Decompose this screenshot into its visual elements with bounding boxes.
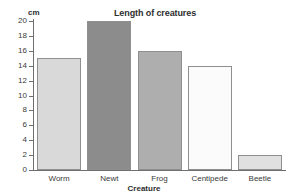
y-tick-label-text: 14 <box>7 62 27 70</box>
y-tick-label-text: 20 <box>7 17 27 25</box>
chart-title: Length of creatures <box>80 8 230 18</box>
y-tick-label: 2 <box>5 151 27 159</box>
x-axis-title: Creature <box>84 184 204 193</box>
y-tick-label-text: 8 <box>7 106 27 114</box>
bar-worm <box>37 58 81 170</box>
y-tick-label-text: 0 <box>7 166 27 174</box>
y-tick-label: 20 <box>5 17 27 25</box>
category-label-newt: Newt <box>84 174 134 183</box>
category-label-beetle: Beetle <box>235 174 285 183</box>
y-tick-label-text: 18 <box>7 32 27 40</box>
y-tick-label-text: 4 <box>7 136 27 144</box>
y-tick-label: 0 <box>5 166 27 174</box>
y-tick-label-text: 12 <box>7 77 27 85</box>
y-tick-label: 14 <box>5 62 27 70</box>
y-tick-label: 16 <box>5 47 27 55</box>
y-tick-label: 6 <box>5 121 27 129</box>
y-tick-label: 4 <box>5 136 27 144</box>
bar-centipede <box>188 66 232 170</box>
y-tick-label: 8 <box>5 106 27 114</box>
y-tick-label-text: 16 <box>7 47 27 55</box>
bar-frog <box>138 51 182 170</box>
y-tick-mark <box>29 170 34 171</box>
x-axis-line <box>33 170 286 171</box>
bar-chart: Length of creatures cm 02468101214161820… <box>0 0 287 196</box>
category-label-worm: Worm <box>34 174 84 183</box>
bar-beetle <box>238 155 282 170</box>
plot-area <box>34 21 285 170</box>
y-tick-label: 10 <box>5 92 27 100</box>
y-tick-label: 18 <box>5 32 27 40</box>
category-label-frog: Frog <box>134 174 184 183</box>
y-tick-label-text: 2 <box>7 151 27 159</box>
y-axis-unit-label: cm <box>28 8 40 17</box>
bar-newt <box>87 21 131 170</box>
category-label-centipede: Centipede <box>185 174 235 183</box>
y-tick-label: 12 <box>5 77 27 85</box>
y-tick-label-text: 10 <box>7 92 27 100</box>
y-tick-label-text: 6 <box>7 121 27 129</box>
